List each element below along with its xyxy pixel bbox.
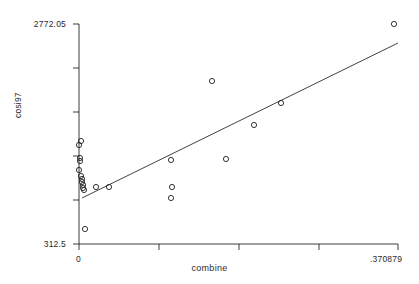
data-point	[168, 195, 173, 200]
data-point	[251, 122, 256, 127]
data-point	[169, 184, 174, 189]
y-tick-label-bottom: 312.5	[44, 239, 66, 249]
data-point	[93, 184, 98, 189]
data-point	[223, 156, 228, 161]
x-axis-ticks	[79, 244, 398, 250]
x-axis-title: combine	[0, 263, 419, 273]
scatter-plot-figure: cosi97 2772.05 312.5 0 .370879 combine	[0, 0, 419, 284]
y-tick-label-bottom-wrap: 312.5	[8, 239, 66, 249]
data-point	[82, 226, 87, 231]
data-point	[278, 100, 283, 105]
data-point	[168, 157, 173, 162]
axis-group	[79, 24, 398, 244]
fitted-line	[82, 43, 398, 198]
regression-line	[82, 43, 398, 198]
data-point	[391, 21, 396, 26]
y-tick-label-top-wrap: 2772.05	[8, 19, 66, 29]
data-point	[209, 78, 214, 83]
y-axis-title: cosi97	[13, 92, 23, 118]
y-axis-ticks	[73, 24, 79, 244]
y-tick-label-top: 2772.05	[34, 19, 66, 29]
data-point-group	[76, 21, 396, 231]
